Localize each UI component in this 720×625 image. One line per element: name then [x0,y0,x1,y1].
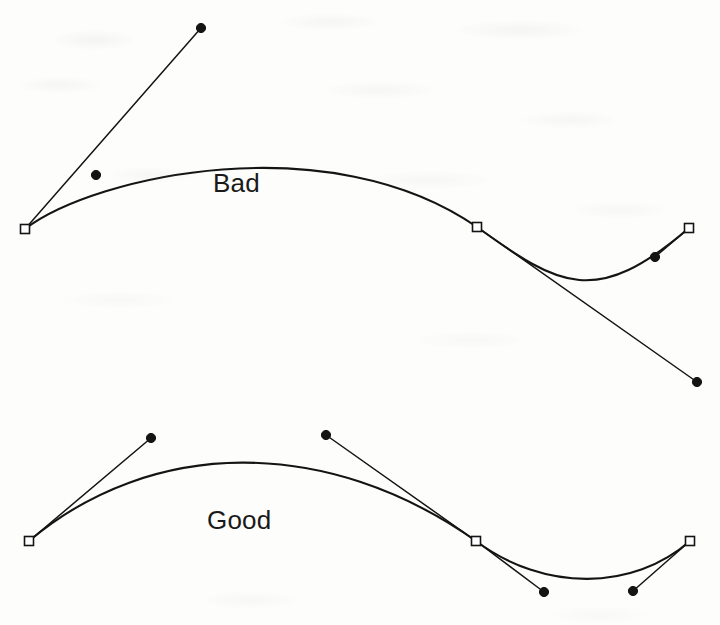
bad-control-point-4[interactable] [650,252,659,261]
bad-handle-line-1[interactable] [25,28,201,229]
bad-control-point-3[interactable] [692,377,701,386]
good-control-point-2[interactable] [321,430,330,439]
figure-canvas: Bad Good [0,0,720,625]
good-example-group: Good [25,430,695,596]
bad-anchor-point-start[interactable] [21,225,30,234]
bad-example-group: Bad [21,23,702,386]
good-anchor-point-end[interactable] [686,537,695,546]
good-label: Good [207,505,271,535]
bad-curve-path[interactable] [25,168,689,280]
bad-control-point-2[interactable] [91,170,100,179]
bad-label: Bad [213,168,260,198]
good-anchor-point-start[interactable] [25,537,34,546]
good-curve-path[interactable] [29,463,690,579]
bezier-figure: Bad Good [0,0,720,625]
good-control-point-3[interactable] [539,587,548,596]
bad-control-point-1[interactable] [196,23,205,32]
bad-anchor-point-end[interactable] [685,224,694,233]
bad-anchor-point-middle[interactable] [473,223,482,232]
good-control-point-1[interactable] [146,433,155,442]
good-control-point-4[interactable] [628,586,637,595]
good-anchor-point-middle[interactable] [472,537,481,546]
